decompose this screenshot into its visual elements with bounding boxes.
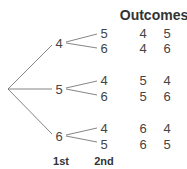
outcome-cell: 4 [163, 122, 170, 135]
node-first-5: 5 [55, 83, 62, 96]
tree-lines [0, 0, 187, 169]
outcomes-header: Outcomes [120, 9, 187, 22]
outcome-cell: 4 [163, 74, 170, 87]
outcome-cell: 6 [163, 90, 170, 103]
label-first: 1st [53, 155, 69, 168]
outcome-cell: 5 [163, 27, 170, 40]
node-second: 6 [100, 90, 107, 103]
outcome-cell: 4 [139, 27, 146, 40]
outcome-cell: 5 [163, 138, 170, 151]
node-second: 6 [100, 42, 107, 55]
outcome-cell: 5 [139, 74, 146, 87]
node-first-6: 6 [55, 130, 62, 143]
outcome-cell: 4 [139, 42, 146, 55]
node-second: 4 [100, 74, 107, 87]
outcome-cell: 6 [139, 138, 146, 151]
outcome-cell: 5 [139, 90, 146, 103]
node-second: 4 [100, 122, 107, 135]
outcome-cell: 6 [139, 122, 146, 135]
label-second: 2nd [94, 155, 114, 168]
node-first-4: 4 [55, 37, 62, 50]
outcome-cell: 6 [163, 42, 170, 55]
node-second: 5 [100, 138, 107, 151]
node-second: 5 [100, 27, 107, 40]
